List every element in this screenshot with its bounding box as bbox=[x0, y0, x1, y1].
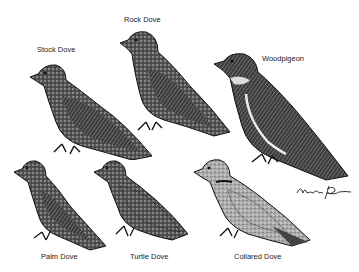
label-rock-dove: Rock Dove bbox=[124, 15, 161, 24]
label-collared-dove: Collared Dove bbox=[234, 252, 282, 261]
label-stock-dove: Stock Dove bbox=[37, 45, 75, 54]
stock-dove-illustration bbox=[28, 60, 154, 160]
turtle-dove-illustration bbox=[92, 156, 188, 244]
label-turtle-dove: Turtle Dove bbox=[130, 252, 169, 261]
label-palm-dove: Palm Dove bbox=[41, 252, 78, 261]
collared-dove-illustration bbox=[192, 154, 312, 250]
